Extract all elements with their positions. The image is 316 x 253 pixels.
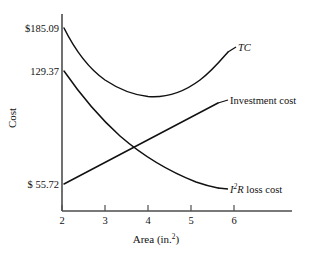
curve-total-cost	[64, 28, 228, 97]
leader-i2r-loss-cost	[218, 188, 228, 189]
x-axis-title-tail: )	[176, 233, 180, 246]
series-label-i2r-loss-cost: I2R loss cost	[229, 182, 282, 196]
x-tick-label-6: 6	[231, 215, 236, 226]
curve-investment-cost	[64, 103, 218, 184]
chart-plot-area: 2 3 4 5 6 $185.09 129.37 $ 55.72 Cost Ar…	[0, 0, 316, 253]
x-tick-label-5: 5	[188, 215, 193, 226]
chart-figure: 2 3 4 5 6 $185.09 129.37 $ 55.72 Cost Ar…	[0, 0, 316, 253]
leader-total-cost	[228, 47, 236, 52]
y-tick-label-12937: 129.37	[30, 66, 59, 77]
x-axis-title: Area (in.2)	[133, 232, 180, 247]
series-label-investment-cost: Investment cost	[230, 95, 296, 106]
curve-i2r-loss-cost	[64, 71, 218, 188]
series-label-total-cost: TC	[238, 42, 252, 53]
x-tick-label-4: 4	[145, 215, 151, 226]
leader-investment-cost	[218, 100, 228, 103]
y-axis-title: Cost	[6, 108, 18, 128]
x-tick-label-3: 3	[102, 215, 107, 226]
i2r-label-tail: loss cost	[244, 184, 283, 195]
x-axis-title-base: Area (in.	[133, 233, 172, 246]
y-tick-label-18509: $185.09	[25, 23, 59, 34]
y-tick-label-5572: $ 55.72	[28, 179, 60, 190]
x-tick-label-2: 2	[59, 215, 64, 226]
